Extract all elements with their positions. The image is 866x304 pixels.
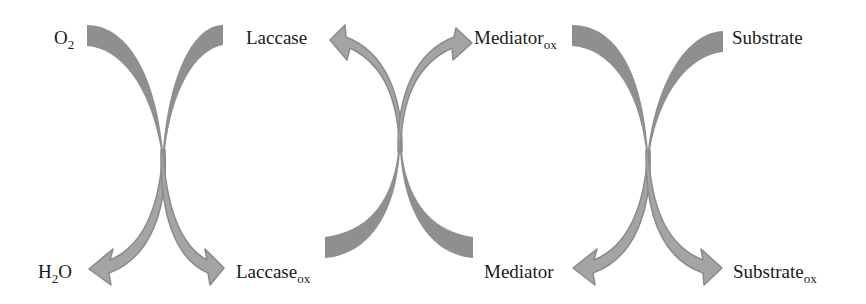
h2o-arrowhead bbox=[89, 150, 165, 285]
label-h2o-base: H bbox=[38, 261, 52, 282]
substrate-tail-arrow bbox=[648, 31, 723, 150]
label-laccase-ox-sub: ox bbox=[297, 271, 310, 286]
label-laccase-top: Laccase bbox=[246, 28, 307, 47]
label-substrate-ox-base: Substrate bbox=[733, 261, 804, 282]
label-substrate-top: Substrate bbox=[732, 28, 803, 47]
o2-tail-arrow bbox=[87, 25, 163, 150]
mediator-ox-tail-arrow bbox=[572, 25, 648, 150]
label-substrate-ox-sub: ox bbox=[804, 271, 817, 286]
substrate-ox-arrowhead bbox=[646, 150, 722, 285]
label-laccase-ox-bottom: Laccaseox bbox=[236, 262, 310, 281]
label-mediator-ox-base: Mediator bbox=[474, 27, 544, 48]
label-substrate-base: Substrate bbox=[732, 27, 803, 48]
label-mediator-base: Mediator bbox=[484, 261, 554, 282]
cycle-1 bbox=[87, 25, 224, 285]
label-mediator-ox-sub: ox bbox=[544, 37, 557, 52]
label-o2: O2 bbox=[54, 28, 74, 47]
mediator-tail-arrow bbox=[400, 152, 473, 258]
label-laccase-base: Laccase bbox=[246, 27, 307, 48]
laccase-ox-arrowhead bbox=[161, 150, 224, 285]
label-o2-base: O bbox=[54, 27, 68, 48]
laccase-ox-tail-arrow bbox=[325, 152, 400, 258]
label-h2o-suffix: O bbox=[58, 261, 72, 282]
mediator-ox-arrowhead bbox=[398, 28, 472, 152]
cycle-2 bbox=[325, 25, 473, 258]
cycle-3 bbox=[572, 25, 723, 285]
label-mediator-bottom: Mediator bbox=[484, 262, 554, 281]
label-mediator-ox-top: Mediatorox bbox=[474, 28, 557, 47]
label-substrate-ox-bottom: Substrateox bbox=[733, 262, 817, 281]
laccase-tail-arrow bbox=[163, 25, 223, 150]
label-o2-sub: 2 bbox=[68, 37, 75, 52]
laccase-arrowhead bbox=[330, 25, 402, 152]
mediator-arrowhead bbox=[573, 150, 650, 285]
label-laccase-ox-base: Laccase bbox=[236, 261, 297, 282]
label-h2o: H2O bbox=[38, 262, 72, 281]
